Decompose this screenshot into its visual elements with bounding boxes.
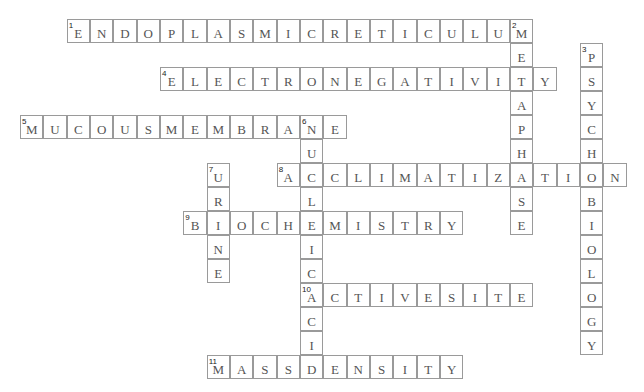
crossword-cell[interactable]: L bbox=[183, 19, 206, 43]
crossword-cell[interactable]: I bbox=[393, 355, 416, 379]
crossword-cell[interactable]: M bbox=[393, 163, 416, 187]
crossword-cell[interactable]: A8 bbox=[277, 163, 300, 187]
crossword-cell[interactable]: E bbox=[207, 67, 230, 91]
crossword-cell[interactable]: O bbox=[230, 211, 253, 235]
crossword-cell[interactable]: G bbox=[580, 307, 603, 331]
crossword-cell[interactable]: T bbox=[510, 67, 533, 91]
crossword-cell[interactable]: C bbox=[417, 19, 440, 43]
crossword-cell[interactable]: T bbox=[533, 163, 556, 187]
crossword-cell[interactable]: N bbox=[323, 67, 346, 91]
crossword-cell[interactable]: N bbox=[347, 355, 370, 379]
crossword-cell[interactable]: O bbox=[300, 67, 323, 91]
crossword-cell[interactable]: N bbox=[603, 163, 626, 187]
crossword-cell[interactable]: I bbox=[557, 163, 580, 187]
crossword-cell[interactable]: S bbox=[277, 355, 300, 379]
crossword-cell[interactable]: G bbox=[370, 67, 393, 91]
crossword-cell[interactable]: P bbox=[510, 115, 533, 139]
crossword-cell[interactable]: N bbox=[207, 235, 230, 259]
crossword-cell[interactable]: I bbox=[463, 283, 486, 307]
crossword-cell[interactable]: B9 bbox=[183, 211, 206, 235]
crossword-cell[interactable]: T bbox=[417, 67, 440, 91]
crossword-cell[interactable]: C bbox=[67, 115, 90, 139]
crossword-cell[interactable]: T bbox=[393, 211, 416, 235]
crossword-cell[interactable]: N6 bbox=[300, 115, 323, 139]
crossword-cell[interactable]: E4 bbox=[160, 67, 183, 91]
crossword-cell[interactable]: C bbox=[230, 67, 253, 91]
crossword-cell[interactable]: L bbox=[580, 259, 603, 283]
crossword-cell[interactable]: N bbox=[90, 19, 113, 43]
crossword-cell[interactable]: M bbox=[207, 115, 230, 139]
crossword-cell[interactable]: L bbox=[463, 19, 486, 43]
crossword-cell[interactable]: B bbox=[230, 115, 253, 139]
crossword-cell[interactable]: A bbox=[393, 67, 416, 91]
crossword-cell[interactable]: E bbox=[300, 211, 323, 235]
crossword-cell[interactable]: C bbox=[253, 211, 276, 235]
crossword-cell[interactable]: E bbox=[510, 211, 533, 235]
crossword-cell[interactable]: Y bbox=[440, 211, 463, 235]
crossword-cell[interactable]: P3 bbox=[580, 43, 603, 67]
crossword-cell[interactable]: E bbox=[183, 115, 206, 139]
crossword-cell[interactable]: I bbox=[463, 163, 486, 187]
crossword-cell[interactable]: L bbox=[347, 163, 370, 187]
crossword-cell[interactable]: C bbox=[580, 115, 603, 139]
crossword-cell[interactable]: M2 bbox=[510, 19, 533, 43]
crossword-cell[interactable]: S bbox=[370, 211, 393, 235]
crossword-cell[interactable]: A bbox=[277, 115, 300, 139]
crossword-cell[interactable]: R bbox=[323, 19, 346, 43]
crossword-cell[interactable]: M bbox=[253, 19, 276, 43]
crossword-cell[interactable]: C bbox=[300, 163, 323, 187]
crossword-cell[interactable]: T bbox=[347, 283, 370, 307]
crossword-cell[interactable]: A bbox=[510, 91, 533, 115]
crossword-cell[interactable]: I bbox=[277, 19, 300, 43]
crossword-cell[interactable]: A bbox=[510, 163, 533, 187]
crossword-cell[interactable]: U7 bbox=[207, 163, 230, 187]
crossword-cell[interactable]: A bbox=[417, 163, 440, 187]
crossword-cell[interactable]: T bbox=[487, 283, 510, 307]
crossword-cell[interactable]: O bbox=[90, 115, 113, 139]
crossword-cell[interactable]: S bbox=[253, 355, 276, 379]
crossword-cell[interactable]: I bbox=[370, 163, 393, 187]
crossword-cell[interactable]: T bbox=[417, 355, 440, 379]
crossword-cell[interactable]: R bbox=[207, 187, 230, 211]
crossword-cell[interactable]: I bbox=[207, 211, 230, 235]
crossword-cell[interactable]: L bbox=[300, 187, 323, 211]
crossword-cell[interactable]: Y bbox=[580, 331, 603, 355]
crossword-cell[interactable]: C bbox=[300, 307, 323, 331]
crossword-cell[interactable]: U bbox=[113, 115, 136, 139]
crossword-cell[interactable]: A10 bbox=[300, 283, 323, 307]
crossword-cell[interactable]: U bbox=[487, 19, 510, 43]
crossword-cell[interactable]: E bbox=[510, 43, 533, 67]
crossword-cell[interactable]: Y bbox=[440, 355, 463, 379]
crossword-cell[interactable]: M bbox=[323, 211, 346, 235]
crossword-cell[interactable]: S bbox=[440, 283, 463, 307]
crossword-cell[interactable]: E bbox=[323, 355, 346, 379]
crossword-cell[interactable]: L bbox=[183, 67, 206, 91]
crossword-cell[interactable]: T bbox=[370, 19, 393, 43]
crossword-cell[interactable]: E bbox=[510, 283, 533, 307]
crossword-cell[interactable]: O bbox=[580, 163, 603, 187]
crossword-cell[interactable]: U bbox=[43, 115, 66, 139]
crossword-cell[interactable]: U bbox=[300, 139, 323, 163]
crossword-cell[interactable]: R bbox=[417, 211, 440, 235]
crossword-cell[interactable]: V bbox=[393, 283, 416, 307]
crossword-cell[interactable]: E bbox=[323, 115, 346, 139]
crossword-cell[interactable]: R bbox=[253, 115, 276, 139]
crossword-cell[interactable]: E bbox=[347, 19, 370, 43]
crossword-cell[interactable]: T bbox=[440, 163, 463, 187]
crossword-cell[interactable]: S bbox=[580, 67, 603, 91]
crossword-cell[interactable]: D bbox=[300, 355, 323, 379]
crossword-cell[interactable]: I bbox=[300, 331, 323, 355]
crossword-cell[interactable]: S bbox=[510, 187, 533, 211]
crossword-cell[interactable]: S bbox=[230, 19, 253, 43]
crossword-cell[interactable]: I bbox=[440, 67, 463, 91]
crossword-cell[interactable]: H bbox=[510, 139, 533, 163]
crossword-cell[interactable]: I bbox=[393, 19, 416, 43]
crossword-cell[interactable]: Z bbox=[487, 163, 510, 187]
crossword-cell[interactable]: Y bbox=[533, 67, 556, 91]
crossword-cell[interactable]: C bbox=[323, 163, 346, 187]
crossword-cell[interactable]: B bbox=[580, 187, 603, 211]
crossword-cell[interactable]: Y bbox=[580, 91, 603, 115]
crossword-cell[interactable]: M11 bbox=[207, 355, 230, 379]
crossword-cell[interactable]: C bbox=[323, 283, 346, 307]
crossword-cell[interactable]: S bbox=[137, 115, 160, 139]
